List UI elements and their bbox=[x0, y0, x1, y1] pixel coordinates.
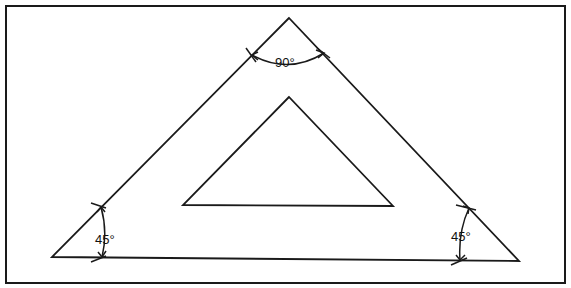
angle-label-45-left: 45° bbox=[95, 232, 115, 247]
angle-label-90: 90° bbox=[275, 55, 295, 70]
frame-border bbox=[6, 6, 565, 283]
inner-triangle bbox=[183, 97, 393, 206]
angle-label-45-right: 45° bbox=[451, 229, 471, 244]
set-square-diagram: 90° 45° 45° bbox=[0, 0, 571, 288]
